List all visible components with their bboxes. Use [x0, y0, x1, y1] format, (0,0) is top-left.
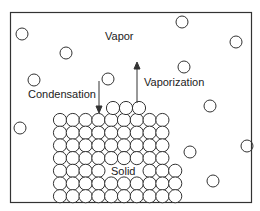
particle — [28, 74, 40, 86]
particle — [143, 139, 156, 152]
particle — [105, 152, 118, 165]
particle — [92, 177, 105, 190]
particle — [119, 101, 132, 114]
particle — [143, 113, 156, 126]
particle — [79, 164, 92, 177]
particle — [92, 152, 105, 165]
particle — [79, 177, 92, 190]
particle — [156, 177, 169, 190]
particle — [79, 126, 92, 139]
particle — [92, 113, 105, 126]
particle — [92, 139, 105, 152]
particle — [169, 190, 182, 203]
particle — [105, 177, 118, 190]
particle — [130, 126, 143, 139]
particle — [14, 122, 26, 134]
particle — [79, 139, 92, 152]
particle — [53, 177, 66, 190]
particle — [169, 177, 182, 190]
particle — [130, 152, 143, 165]
particle — [92, 126, 105, 139]
condensation-arrow-icon — [96, 81, 102, 113]
particle — [143, 126, 156, 139]
particle — [105, 113, 118, 126]
particle — [66, 139, 79, 152]
vaporization-label: Vaporization — [144, 76, 204, 88]
particle — [53, 190, 66, 203]
particle — [79, 152, 92, 165]
particle — [66, 190, 79, 203]
particle — [117, 113, 130, 126]
particle — [92, 164, 105, 177]
particle — [106, 101, 119, 114]
particle — [117, 126, 130, 139]
particle — [53, 164, 66, 177]
particle — [143, 177, 156, 190]
particle — [16, 28, 28, 40]
particle — [117, 139, 130, 152]
particle — [230, 36, 242, 48]
particle — [143, 152, 156, 165]
particle — [156, 139, 169, 152]
particle — [66, 177, 79, 190]
particle — [130, 139, 143, 152]
vapor-label: Vapor — [105, 30, 134, 42]
particle — [60, 47, 72, 59]
particle — [176, 16, 188, 28]
particle — [66, 113, 79, 126]
condensation-label: Condensation — [28, 88, 96, 100]
particle — [53, 113, 66, 126]
particle — [156, 164, 169, 177]
particle — [207, 175, 219, 187]
solid-label: Solid — [111, 165, 135, 177]
particle — [184, 146, 196, 158]
particle — [130, 190, 143, 203]
particle — [92, 190, 105, 203]
particle — [143, 190, 156, 203]
particle — [66, 126, 79, 139]
particle — [117, 177, 130, 190]
particle — [117, 190, 130, 203]
particle — [130, 177, 143, 190]
particle — [53, 139, 66, 152]
particle — [79, 190, 92, 203]
particle — [53, 152, 66, 165]
particle — [156, 152, 169, 165]
particle — [156, 126, 169, 139]
particle — [102, 73, 114, 85]
particle — [105, 139, 118, 152]
particle — [156, 113, 169, 126]
particle — [105, 126, 118, 139]
particle — [178, 61, 190, 73]
particle — [204, 100, 216, 112]
particle — [132, 101, 145, 114]
particle — [169, 164, 182, 177]
solid-lattice — [53, 101, 181, 202]
particle — [66, 152, 79, 165]
vaporization-arrow-icon — [134, 62, 140, 103]
particle — [143, 164, 156, 177]
particle — [79, 113, 92, 126]
particle — [105, 190, 118, 203]
particle — [130, 113, 143, 126]
particle — [117, 152, 130, 165]
particle — [156, 190, 169, 203]
particle — [53, 126, 66, 139]
particle — [66, 164, 79, 177]
